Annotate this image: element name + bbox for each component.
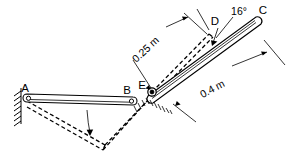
bar-ab	[23, 94, 137, 105]
point-label-a: A	[21, 82, 29, 94]
fixed-support-wall	[14, 88, 21, 126]
motion-arrow-ab	[87, 110, 94, 136]
dimension-label-04: 0.4 m	[198, 77, 227, 100]
angle-label-16: 16°	[231, 5, 247, 17]
point-label-b: B	[123, 84, 131, 96]
point-label-c: C	[259, 4, 267, 16]
displaced-bar-ab	[27, 101, 105, 150]
point-label-d: D	[211, 15, 219, 27]
point-label-e: E	[138, 79, 146, 91]
mechanism-figure: 0.25 m 0.4 m 16° A B	[0, 0, 294, 164]
dimension-label-025: 0.25 m	[129, 34, 161, 65]
dimension-line-04	[173, 40, 285, 122]
figure-canvas: 0.25 m 0.4 m 16° A B	[0, 0, 294, 164]
